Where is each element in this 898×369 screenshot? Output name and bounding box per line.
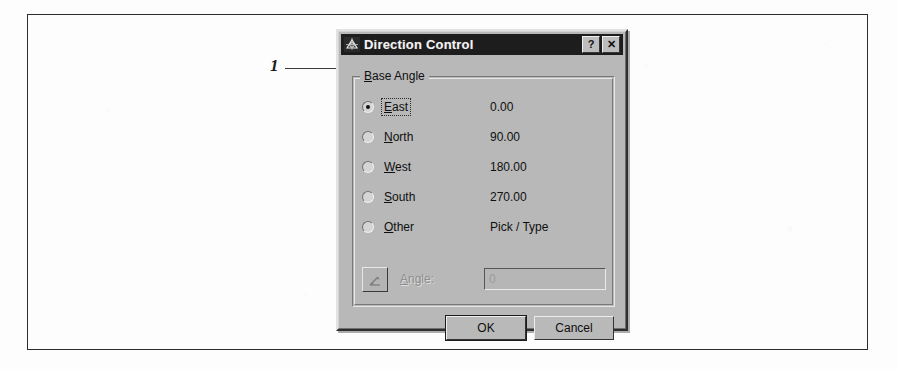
angle-label: Angle: bbox=[400, 272, 434, 286]
ok-button[interactable]: OK bbox=[446, 316, 526, 340]
radio-label-south[interactable]: South bbox=[382, 189, 417, 205]
titlebar-button-group: ? ✕ bbox=[582, 36, 620, 53]
angle-input[interactable]: 0 bbox=[484, 268, 606, 290]
radio-row-north[interactable]: North 90.00 bbox=[362, 127, 607, 147]
angle-input-value: 0 bbox=[489, 272, 496, 286]
angle-entry-row: Angle: 0 bbox=[362, 267, 607, 293]
callout-number: 1 bbox=[270, 56, 279, 76]
help-button[interactable]: ? bbox=[582, 36, 600, 53]
radio-label-north[interactable]: North bbox=[382, 129, 415, 145]
cancel-button[interactable]: Cancel bbox=[534, 316, 614, 340]
radio-indicator-other[interactable] bbox=[362, 221, 374, 233]
radio-label-east[interactable]: East bbox=[382, 99, 410, 115]
radio-value-east: 0.00 bbox=[490, 100, 513, 114]
close-button[interactable]: ✕ bbox=[602, 36, 620, 53]
radio-label-west[interactable]: West bbox=[382, 159, 413, 175]
radio-value-other: Pick / Type bbox=[490, 220, 548, 234]
radio-value-west: 180.00 bbox=[490, 160, 527, 174]
dialog-titlebar[interactable]: Direction Control ? ✕ bbox=[341, 34, 623, 55]
radio-value-south: 270.00 bbox=[490, 190, 527, 204]
radio-row-south[interactable]: South 270.00 bbox=[362, 187, 607, 207]
pick-angle-icon-button[interactable] bbox=[362, 267, 388, 292]
radio-indicator-east[interactable] bbox=[362, 101, 374, 113]
radio-row-west[interactable]: West 180.00 bbox=[362, 157, 607, 177]
base-angle-groupbox: Base Angle East 0.00 North 90.00 West 18… bbox=[352, 69, 615, 307]
radio-indicator-west[interactable] bbox=[362, 161, 374, 173]
dialog-title: Direction Control bbox=[364, 37, 582, 52]
pick-angle-icon bbox=[368, 273, 382, 287]
radio-row-east[interactable]: East 0.00 bbox=[362, 97, 607, 117]
direction-control-dialog: Direction Control ? ✕ Base Angle East 0.… bbox=[336, 29, 628, 331]
radio-label-other[interactable]: Other bbox=[382, 219, 416, 235]
radio-value-north: 90.00 bbox=[490, 130, 520, 144]
radio-indicator-south[interactable] bbox=[362, 191, 374, 203]
radio-indicator-north[interactable] bbox=[362, 131, 374, 143]
radio-row-other[interactable]: Other Pick / Type bbox=[362, 217, 607, 237]
groupbox-label: Base Angle bbox=[360, 69, 429, 83]
compass-icon bbox=[344, 37, 360, 52]
